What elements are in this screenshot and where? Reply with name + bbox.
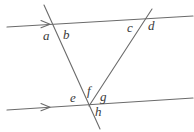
angle-label-h: h <box>95 105 102 118</box>
angle-label-g: g <box>100 90 107 103</box>
top-parallel-line <box>7 16 193 27</box>
angle-label-e: e <box>70 91 76 104</box>
angle-label-b: b <box>63 28 70 41</box>
angle-label-d: d <box>148 19 155 32</box>
angle-label-f: f <box>87 84 91 97</box>
angle-label-c: c <box>127 21 133 34</box>
geometry-figure: a b c d e f g h <box>0 0 194 132</box>
angle-label-a: a <box>43 29 50 42</box>
ascending-transversal <box>89 9 152 106</box>
